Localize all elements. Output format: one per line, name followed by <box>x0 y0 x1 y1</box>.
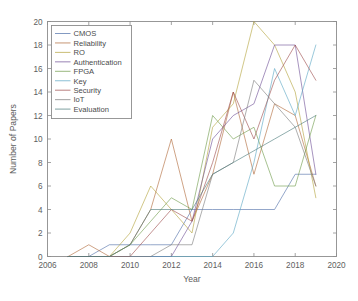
y-tick-label: 16 <box>33 65 43 74</box>
legend-label-ro[interactable]: RO <box>74 48 85 57</box>
legend-label-fpga[interactable]: FPGA <box>74 67 96 76</box>
y-tick-label: 6 <box>38 182 43 191</box>
y-tick-label: 2 <box>38 229 43 238</box>
x-tick-label: 2012 <box>162 261 181 270</box>
x-tick-label: 2008 <box>80 261 99 270</box>
y-tick-label: 20 <box>33 18 43 27</box>
x-axis-title: Year <box>183 274 201 284</box>
chart-figure: 2006200820102012201420162018202002468101… <box>0 0 358 301</box>
x-tick-label: 2018 <box>286 261 305 270</box>
legend-label-iot[interactable]: IoT <box>74 95 85 104</box>
legend-label-evaluation[interactable]: Evaluation <box>74 105 109 114</box>
legend-label-cmos[interactable]: CMOS <box>74 29 97 38</box>
y-tick-label: 0 <box>38 253 43 262</box>
y-tick-label: 8 <box>38 159 43 168</box>
y-tick-label: 10 <box>33 135 43 144</box>
chart-legend[interactable]: CMOSReliabilityROAuthenticationFPGAKeySe… <box>52 26 132 119</box>
line-chart: 2006200820102012201420162018202002468101… <box>0 0 358 301</box>
y-tick-label: 4 <box>38 206 43 215</box>
x-tick-label: 2016 <box>245 261 264 270</box>
legend-label-security[interactable]: Security <box>74 86 102 95</box>
legend-label-authentication[interactable]: Authentication <box>74 58 122 67</box>
y-tick-label: 14 <box>33 88 43 97</box>
y-tick-label: 12 <box>33 112 43 121</box>
y-tick-label: 18 <box>33 41 43 50</box>
legend-label-key[interactable]: Key <box>74 77 87 86</box>
x-tick-label: 2014 <box>204 261 223 270</box>
legend-label-reliability[interactable]: Reliability <box>74 39 107 48</box>
x-tick-label: 2010 <box>121 261 140 270</box>
y-axis-title: Number of Papers <box>8 104 18 174</box>
x-tick-label: 2006 <box>38 261 57 270</box>
x-tick-label: 2020 <box>327 261 346 270</box>
